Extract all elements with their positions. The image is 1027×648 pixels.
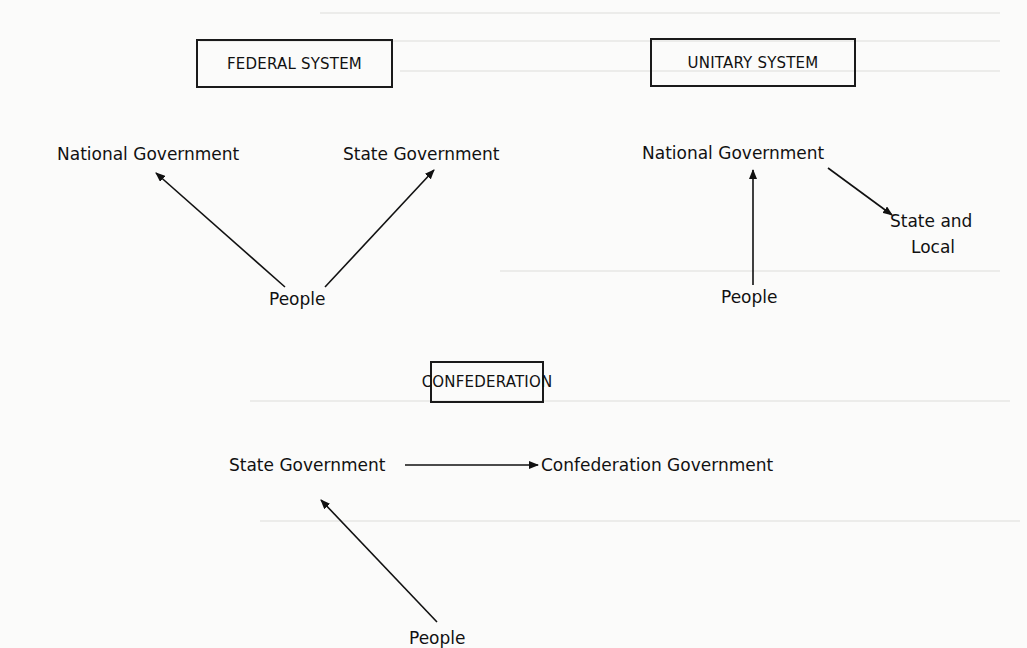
unitary-system-title: UNITARY SYSTEM	[688, 54, 819, 72]
unitary-state-and-local-label-line1: State and	[890, 213, 972, 230]
federal-people-label: People	[269, 291, 325, 308]
unitary-people-label: People	[721, 289, 777, 306]
arrow-people-to-state	[325, 170, 434, 287]
arrow-national-to-state-local	[828, 168, 892, 215]
confederation-government-label: Confederation Government	[541, 457, 773, 474]
federal-state-government-label: State Government	[343, 146, 499, 163]
unitary-state-and-local-label-line2: Local	[911, 239, 955, 256]
confederation-title-box: CONFEDERATION	[430, 361, 544, 403]
confed-people-label: People	[409, 630, 465, 647]
unitary-system-title-box: UNITARY SYSTEM	[650, 38, 856, 87]
federal-system-title-box: FEDERAL SYSTEM	[196, 39, 393, 88]
federal-national-government-label: National Government	[57, 146, 239, 163]
arrow-people-to-national	[156, 173, 285, 287]
arrow-people-to-state-confed	[321, 500, 437, 622]
unitary-national-government-label: National Government	[642, 145, 824, 162]
confed-state-government-label: State Government	[229, 457, 385, 474]
confederation-title: CONFEDERATION	[422, 373, 553, 391]
federal-system-title: FEDERAL SYSTEM	[227, 55, 362, 73]
